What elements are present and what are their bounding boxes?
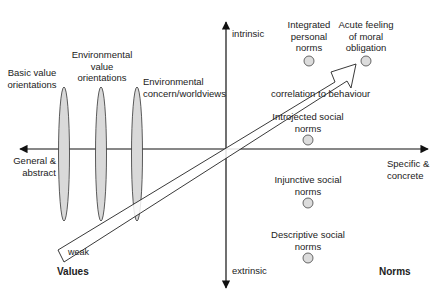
- label-injunctive-social-norms: Injunctive social norms: [266, 174, 350, 197]
- axis-label-intrinsic: intrinsic: [232, 28, 264, 40]
- label-line: Environmental: [70, 49, 134, 61]
- label-line: orientations: [2, 79, 62, 91]
- label-environmental-value-orientations: Environmental value orientations: [70, 49, 134, 84]
- label-line: Environmental: [143, 76, 226, 88]
- arrow-label-correlation: correlation to behaviour: [271, 88, 370, 100]
- label-line: norms: [279, 42, 339, 54]
- ellipse-basic-value-orientations: [59, 87, 70, 221]
- label-line: Introjected social: [266, 111, 350, 123]
- label-basic-value-orientations: Basic value orientations: [2, 67, 62, 90]
- label-integrated-personal-norms: Integrated personal norms: [279, 19, 339, 54]
- label-line: value: [70, 61, 134, 73]
- label-descriptive-social-norms: Descriptive social norms: [266, 229, 350, 252]
- circle-integrated-personal-norms: [304, 56, 314, 66]
- circle-introjected-social-norms: [303, 135, 313, 145]
- label-line: norms: [266, 186, 350, 198]
- label-line: Injunctive social: [266, 174, 350, 186]
- pole-label-values: Values: [57, 266, 89, 278]
- label-line: norms: [266, 123, 350, 135]
- axis-label-specific-concrete: Specific & concrete: [387, 158, 439, 181]
- label-line: Descriptive social: [266, 229, 350, 241]
- ellipse-environmental-value-orientations: [96, 87, 107, 221]
- label-line: Integrated: [279, 19, 339, 31]
- label-line: Basic value: [2, 67, 62, 79]
- label-line: Acute feeling: [334, 19, 398, 31]
- label-acute-moral-obligation: Acute feeling of moral obligation: [334, 19, 398, 54]
- label-line: of moral: [334, 31, 398, 43]
- circle-injunctive-social-norms: [303, 198, 313, 208]
- pole-label-norms: Norms: [379, 266, 411, 278]
- circle-descriptive-social-norms: [303, 253, 313, 263]
- label-introjected-social-norms: Introjected social norms: [266, 111, 350, 134]
- axis-label-extrinsic: extrinsic: [232, 265, 267, 277]
- label-line: concern/worldviews: [143, 88, 226, 100]
- label-environmental-concern: Environmental concern/worldviews: [143, 76, 226, 99]
- axis-label-general-abstract: General & abstract: [8, 155, 56, 178]
- label-line: norms: [266, 241, 350, 253]
- label-line: personal: [279, 31, 339, 43]
- label-text: General & abstract: [8, 155, 56, 178]
- label-line: orientations: [70, 72, 134, 84]
- circle-acute-moral-obligation: [361, 56, 371, 66]
- label-text: Specific & concrete: [387, 158, 429, 181]
- label-line: obligation: [334, 42, 398, 54]
- arrow-label-weak: weak: [68, 247, 89, 259]
